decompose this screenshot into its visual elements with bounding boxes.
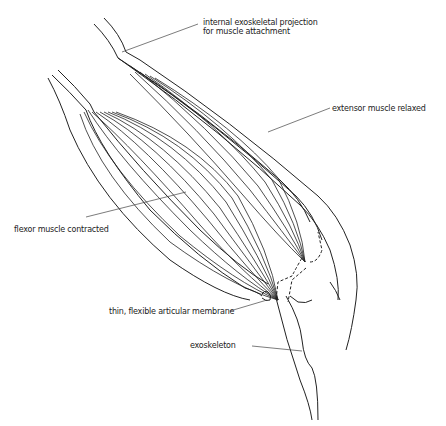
limb-diagram [0,0,446,426]
label-exoskeleton: exoskeleton [190,341,236,350]
label-membrane: thin, flexible articular membrane [109,307,234,316]
lower-left-segment [48,70,268,300]
lower-exoskeleton [276,282,340,420]
outer-wall-right [346,300,356,350]
label-flexor: flexor muscle contracted [14,225,109,234]
label-projection-line2: for muscle attachment [203,27,318,36]
joint-dashed-lines [276,232,322,302]
label-projection-line1: internal exoskeletal projection [203,18,318,27]
leader-lines [86,24,330,351]
extensor-muscle [130,72,305,262]
label-extensor: extensor muscle relaxed [332,104,426,113]
label-projection: internal exoskeletal projection for musc… [203,18,318,36]
